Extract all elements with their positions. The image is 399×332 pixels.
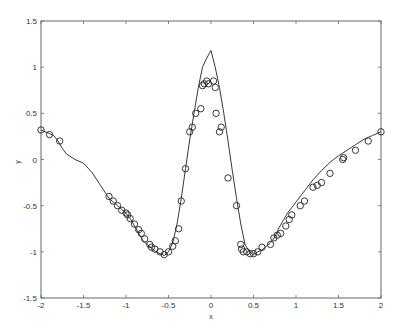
x-tick-label: 0: [209, 301, 214, 310]
y-axis-label: y: [14, 160, 22, 164]
x-tick-label: 0.5: [248, 301, 260, 310]
x-tick-label: 2: [379, 301, 384, 310]
y-tick-label: -1.5: [23, 294, 37, 303]
x-tick-label: 1: [294, 301, 299, 310]
x-tick-label: 1.5: [333, 301, 345, 310]
plot-frame: [41, 21, 381, 298]
y-tick-label: 0: [33, 156, 38, 165]
x-tick-label: -0.5: [162, 301, 176, 310]
y-tick-label: -1: [30, 248, 38, 257]
x-tick-label: -1.5: [77, 301, 91, 310]
x-axis-label: x: [209, 313, 213, 320]
y-tick-label: 0.5: [26, 109, 38, 118]
y-tick-label: 1: [33, 63, 38, 72]
x-tick-label: -1: [122, 301, 130, 310]
y-tick-label: -0.5: [23, 202, 37, 211]
y-tick-label: 1.5: [26, 17, 38, 26]
line-chart: -2-1.5-1-0.500.511.52 -1.5-1-0.500.511.5…: [0, 0, 399, 332]
x-tick-label: -2: [37, 301, 45, 310]
